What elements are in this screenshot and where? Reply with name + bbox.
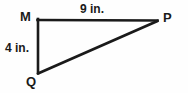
side-MP-line <box>38 20 158 21</box>
vertex-label-m: M <box>20 10 31 23</box>
side-length-label-mq: 4 in. <box>5 42 29 54</box>
side-QP-hypotenuse-line <box>38 21 158 74</box>
vertex-label-p: P <box>163 11 172 24</box>
geometry-figure: M P Q 9 in. 4 in. <box>0 0 188 93</box>
vertex-label-q: Q <box>26 75 36 88</box>
triangle-outline <box>38 19 158 74</box>
side-length-label-mp: 9 in. <box>80 3 104 15</box>
